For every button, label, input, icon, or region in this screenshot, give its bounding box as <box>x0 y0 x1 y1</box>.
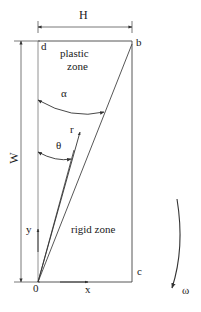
label-axis-x: x <box>85 284 91 295</box>
label-axis-y: y <box>26 224 32 235</box>
angle-arc-theta <box>38 152 71 160</box>
label-angle-theta: θ <box>56 140 61 151</box>
label-plastic-zone-line2: zone <box>67 61 88 72</box>
radius-ray-r <box>38 132 80 282</box>
dimension-h <box>38 21 132 33</box>
label-vertex-b: b <box>136 37 142 48</box>
label-rigid-zone: rigid zone <box>71 224 115 235</box>
label-vertex-d: d <box>41 41 47 52</box>
angle-arc-alpha <box>38 100 104 114</box>
label-h: H <box>79 9 88 21</box>
zone-boundary-lines <box>38 44 132 282</box>
label-w: W <box>8 152 20 163</box>
label-vertex-c: c <box>137 266 142 277</box>
figure-canvas: H W d b c 0 x y r α θ ω plastic zone rig… <box>0 0 201 312</box>
plastic-rigid-boundary-outer <box>38 44 132 282</box>
label-plastic-zone-line1: plastic <box>60 48 89 59</box>
label-omega: ω <box>182 285 189 296</box>
label-angle-alpha: α <box>61 88 67 99</box>
label-radius-r: r <box>70 124 74 135</box>
rotation-arrow-omega <box>172 199 180 288</box>
label-origin: 0 <box>33 283 39 294</box>
diagram-svg <box>0 0 201 312</box>
